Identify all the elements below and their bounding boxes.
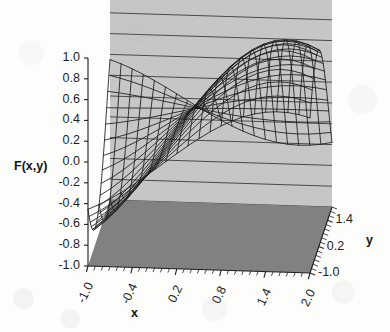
x-tick-mark	[86, 266, 88, 272]
x-tick-mark	[101, 266, 103, 270]
x-tick-mark	[153, 268, 155, 272]
z-tick-label: -0.8	[46, 237, 80, 251]
x-tick-mark	[190, 269, 192, 273]
y-tick-label: 0.2	[327, 239, 359, 253]
y-tick-mark	[332, 207, 337, 209]
z-tick-label: 0.6	[46, 92, 80, 106]
y-tick-mark	[310, 273, 315, 275]
z-tick-label: 0.2	[46, 133, 80, 147]
x-tick-mark	[279, 272, 281, 276]
x-tick-mark	[175, 269, 177, 275]
x-tick-mark	[212, 270, 214, 274]
y-tick-mark	[316, 255, 321, 257]
z-axis-label: F(x,y)	[14, 159, 47, 173]
y-tick-mark	[320, 242, 325, 244]
x-tick-mark	[242, 271, 244, 275]
x-tick-mark	[94, 266, 96, 270]
x-tick-mark	[197, 270, 199, 274]
z-tick-label: 0.8	[46, 71, 80, 85]
y-tick-mark	[319, 247, 324, 249]
y-axis-label: y	[366, 233, 373, 247]
y-tick-mark	[323, 233, 328, 235]
y-tick-mark	[328, 220, 333, 222]
x-tick-mark	[131, 267, 133, 273]
y-tick-mark	[329, 216, 334, 218]
x-axis-label: x	[131, 306, 138, 320]
x-tick-mark	[168, 269, 170, 273]
y-tick-mark	[314, 260, 319, 262]
z-tick-label: -0.2	[46, 175, 80, 189]
y-tick-mark	[317, 251, 322, 253]
x-tick-mark	[123, 267, 125, 271]
x-tick-mark	[205, 270, 207, 274]
y-tick-mark	[325, 229, 330, 231]
plot-floor	[88, 200, 332, 273]
z-tick-label: -1.0	[46, 258, 80, 272]
x-tick-mark	[257, 271, 259, 275]
y-tick-mark	[311, 269, 316, 271]
x-tick-mark	[220, 270, 222, 276]
z-tick-label: -0.4	[46, 196, 80, 210]
z-tick-label: -0.6	[46, 216, 80, 230]
chart-figure: F(x,y) = sin(x) cos(y) 1.00.80.60.40.20.…	[0, 0, 390, 332]
y-tick-mark	[326, 225, 331, 227]
x-tick-mark	[138, 268, 140, 272]
x-tick-mark	[146, 268, 148, 272]
z-tick-label: 0.0	[46, 154, 80, 168]
x-tick-mark	[249, 271, 251, 275]
x-tick-mark	[286, 272, 288, 276]
x-tick-mark	[116, 267, 118, 271]
x-tick-mark	[227, 270, 229, 274]
x-tick-mark	[264, 272, 266, 278]
y-tick-label: -1.0	[318, 265, 350, 279]
x-tick-mark	[271, 272, 273, 276]
x-tick-mark	[234, 271, 236, 275]
z-tick-label: 0.4	[46, 112, 80, 126]
x-tick-mark	[294, 273, 296, 277]
x-tick-mark	[183, 269, 185, 273]
x-tick-mark	[301, 273, 303, 277]
x-tick-mark	[109, 267, 111, 271]
z-tick-label: 1.0	[46, 50, 80, 64]
y-tick-label: 1.4	[336, 212, 368, 226]
x-tick-mark	[308, 273, 310, 279]
x-tick-mark	[160, 268, 162, 272]
